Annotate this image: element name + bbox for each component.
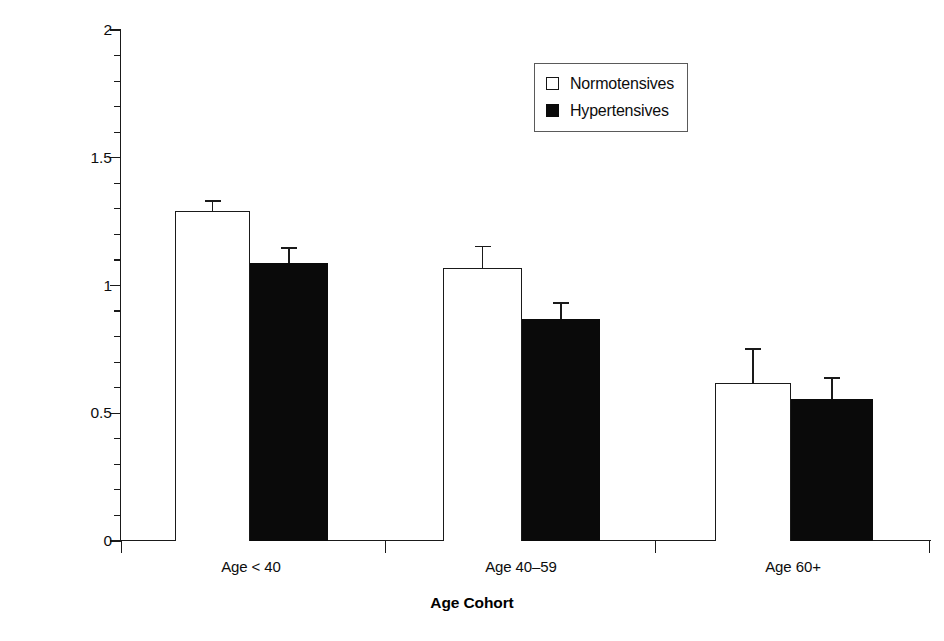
error-bar-hypertensives-0 [281,247,297,262]
x-axis-separator-tick [655,541,656,553]
y-axis-minor-tick [114,132,121,133]
y-axis-tick-label: 1 [40,277,112,295]
bar-hypertensives-0 [250,263,328,541]
y-axis-minor-tick [114,259,121,260]
x-axis-category-label-0: Age < 40 [161,558,341,575]
y-axis-minor-tick [114,515,121,516]
error-bar-stem [212,200,214,211]
error-bar-cap [205,200,221,202]
error-bar-stem [288,247,290,262]
x-axis-title: Age Cohort [0,594,944,612]
error-bar-cap [745,348,761,350]
y-axis-minor-tick [114,464,121,465]
bar-hypertensives-1 [522,319,600,541]
error-bar-cap [475,246,491,248]
legend-label-hypertensives: Hypertensives [570,102,669,120]
error-bar-cap [281,247,297,249]
y-axis-minor-tick [114,234,121,235]
bar-normotensives-0 [175,211,250,541]
legend-label-normotensives: Normotensives [570,75,674,93]
y-axis-minor-tick [114,336,121,337]
x-axis-separator-tick [929,541,930,553]
y-axis-minor-tick [114,489,121,490]
y-axis-tick-label: 2 [40,21,112,39]
legend-swatch-open-square-icon [546,77,559,90]
error-bar-stem [560,302,562,319]
error-bar-normotensives-2 [745,348,761,382]
y-axis-tick-label: 0.5 [40,404,112,422]
error-bar-cap [824,377,840,379]
x-axis-separator-tick [385,541,386,553]
legend-item-hypertensives: Hypertensives [546,97,674,124]
chart-legend: Normotensives Hypertensives [534,63,688,132]
error-bar-stem [752,348,754,382]
y-axis-tick-label: 1.5 [40,149,112,167]
error-bar-stem [482,246,484,268]
y-axis-minor-tick [114,362,121,363]
y-axis-tick-label: 0 [40,532,112,550]
legend-item-normotensives: Normotensives [546,70,674,97]
error-bar-stem [831,377,833,399]
bar-chart-figure: Visualization-Performance Composite (T-S… [0,0,944,641]
bar-hypertensives-2 [791,399,873,541]
y-axis-minor-tick [114,310,121,311]
y-axis-minor-tick [114,387,121,388]
y-axis-minor-tick [114,81,121,82]
y-axis-minor-tick [114,438,121,439]
y-axis-minor-tick [114,183,121,184]
y-axis-minor-tick [114,208,121,209]
y-axis-minor-tick [114,106,121,107]
legend-swatch-filled-square-icon [546,104,559,117]
x-axis-separator-tick [121,541,122,553]
error-bar-hypertensives-1 [553,302,569,319]
error-bar-cap [553,302,569,304]
bar-normotensives-1 [443,268,522,541]
bar-normotensives-2 [715,383,791,541]
error-bar-hypertensives-2 [824,377,840,399]
x-axis-category-label-2: Age 60+ [703,558,883,575]
y-axis-minor-tick [114,55,121,56]
error-bar-normotensives-1 [475,246,491,268]
error-bar-normotensives-0 [205,200,221,211]
x-axis-category-label-1: Age 40–59 [431,558,611,575]
